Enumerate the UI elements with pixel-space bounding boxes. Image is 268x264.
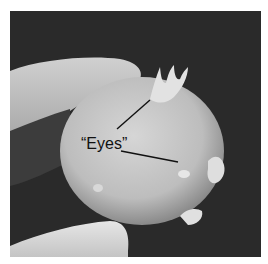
eyes-label: “Eyes” bbox=[81, 135, 127, 153]
potato-photo bbox=[10, 11, 261, 257]
photo-frame: “Eyes” bbox=[10, 11, 261, 257]
side-eye bbox=[178, 170, 190, 178]
eye-left bbox=[93, 184, 103, 192]
